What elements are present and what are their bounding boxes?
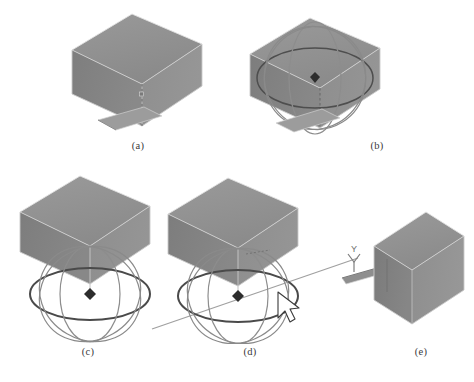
y-axis-fork-icon <box>348 254 360 262</box>
box-solid-e[interactable] <box>374 212 464 324</box>
panel-b-illustration <box>228 6 408 138</box>
panel-c-caption: (c) <box>68 346 108 357</box>
panel-d-caption: (d) <box>230 346 270 357</box>
panel-b-caption: (b) <box>357 140 397 151</box>
panel-e[interactable]: Y <box>330 206 472 338</box>
panel-a[interactable] <box>58 6 218 138</box>
panel-b[interactable] <box>228 6 408 138</box>
figure-root: (a) <box>0 0 474 382</box>
panel-d[interactable] <box>150 166 360 344</box>
edge-grip-handle-a[interactable] <box>140 92 144 96</box>
panel-e-caption: (e) <box>401 346 441 357</box>
y-axis-widget-e[interactable]: Y <box>348 244 360 272</box>
panel-e-illustration: Y <box>330 206 472 338</box>
panel-a-illustration <box>58 6 218 138</box>
panel-d-illustration <box>150 166 360 344</box>
pivot-point-icon[interactable] <box>84 288 96 300</box>
y-axis-label: Y <box>351 244 357 254</box>
panel-a-caption: (a) <box>118 140 158 151</box>
